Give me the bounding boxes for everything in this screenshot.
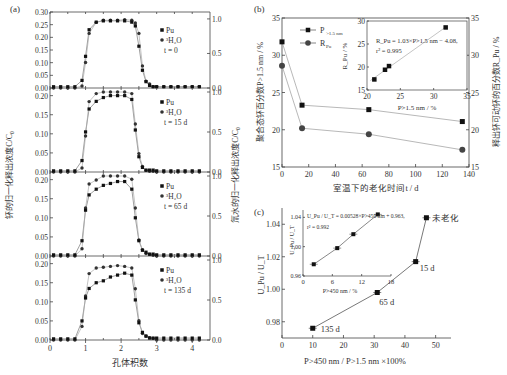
h2o-marker <box>116 264 119 267</box>
p-marker <box>300 103 305 108</box>
pu-marker <box>73 169 76 172</box>
inset-y-tick: 30 <box>358 17 366 26</box>
panel-c-xlabel: P>450 nm / P>1.5 nm ×100% <box>304 356 406 366</box>
y2-tick-label: 35 <box>471 14 479 23</box>
h2o-marker <box>123 174 126 177</box>
r-marker <box>366 131 372 137</box>
point-label: 未老化 <box>432 213 459 223</box>
y-tick-label: 0.15 <box>35 195 48 204</box>
panel-b-inset-frame <box>367 21 467 90</box>
x-tick-label: 20 <box>305 170 313 179</box>
p-marker <box>460 119 465 124</box>
pu-marker <box>109 19 112 22</box>
legend-h2o: ³H₂O <box>166 36 182 45</box>
inset-c-marker <box>351 232 355 236</box>
legend-h2o-marker <box>160 278 164 282</box>
pu-marker <box>155 253 158 256</box>
inset-x-tick: 12 <box>358 278 365 285</box>
y-tick-label: 20 <box>272 126 280 135</box>
p-marker <box>280 39 285 44</box>
x-tick-label: 40 <box>331 170 339 179</box>
r-marker <box>459 147 465 153</box>
legend-pu: Pu <box>166 182 174 191</box>
pu-marker <box>116 19 119 22</box>
pu-marker <box>102 19 105 22</box>
h2o-marker <box>80 247 83 250</box>
series-line <box>314 214 378 264</box>
y2-tick-label: 1.0 <box>212 256 222 265</box>
time-label: t = 135 d <box>164 286 191 295</box>
r-marker <box>299 125 305 131</box>
pu-marker <box>144 80 147 83</box>
y-tick-label: 25 <box>272 89 280 98</box>
c-marker <box>413 259 418 264</box>
inset-b-ylabel: R_Pu / % <box>341 42 349 69</box>
y-tick-label: 15 <box>272 163 280 172</box>
h2o-marker <box>87 272 90 275</box>
pu-marker <box>123 180 126 183</box>
inset-marker <box>383 68 388 73</box>
h2o-marker <box>84 61 87 64</box>
h2o-marker <box>134 287 137 290</box>
inset-y-tick: 20 <box>358 63 366 72</box>
h2o-marker <box>123 265 126 268</box>
pu-marker <box>130 21 133 24</box>
y2-tick-label: 1.0 <box>212 15 222 24</box>
panel-b-ylabel-right: 释出钚可动钚的百分数R_Pu / % <box>491 36 501 147</box>
point-label: 65 d <box>379 297 395 307</box>
inset-marker <box>372 77 377 82</box>
pu-marker <box>130 98 133 101</box>
h2o-marker <box>80 325 83 328</box>
inset-x-tick: 35 <box>463 92 471 101</box>
panel-b-label: (b) <box>254 4 265 14</box>
figure: (a)0.000.050.100.150.200.250.300.00.51.0… <box>0 0 507 375</box>
pu-marker <box>176 336 179 339</box>
pu-marker <box>80 159 83 162</box>
legend-p-marker <box>306 28 311 33</box>
x-tick-label: 4 <box>190 344 194 353</box>
pu-marker <box>176 169 179 172</box>
inset-c-xlabel: P>450 nm / % <box>323 288 358 294</box>
pu-marker <box>169 169 172 172</box>
panel-c-label: (c) <box>254 207 264 217</box>
pu-marker <box>152 336 155 339</box>
y2-tick-label: 30 <box>471 51 479 60</box>
pu-marker <box>134 298 137 301</box>
y-tick-label: 0.20 <box>35 92 48 101</box>
pu-marker <box>116 180 119 183</box>
pu-marker <box>152 252 155 255</box>
y-tick-label: 0.30 <box>35 8 48 17</box>
pu-marker <box>184 169 187 172</box>
y-tick-label: 0.10 <box>35 298 48 307</box>
pu-marker <box>137 155 140 158</box>
inset-marker <box>387 64 392 69</box>
pu-marker <box>80 239 83 242</box>
panel-a-label: (a) <box>10 4 20 14</box>
inset-marker <box>443 25 448 30</box>
pu-marker <box>88 193 91 196</box>
pu-marker <box>134 128 137 131</box>
h2o-marker <box>137 32 140 35</box>
legend-pu: Pu <box>166 98 174 107</box>
time-label: t = 0 <box>164 46 178 55</box>
pu-marker <box>137 45 140 48</box>
pu-marker <box>84 130 87 133</box>
panel-b-ylabel-left: 聚合态钚百分数P>1.5 nm / % <box>255 42 265 142</box>
y-tick-label: 0.15 <box>35 46 48 55</box>
h2o-marker <box>102 90 105 93</box>
pu-marker <box>52 337 55 340</box>
x-tick-label: 50 <box>432 341 440 350</box>
x-tick-label: 80 <box>385 170 393 179</box>
y2-tick-label: 25 <box>471 89 479 98</box>
pu-marker <box>184 85 187 88</box>
h2o-marker <box>109 90 112 93</box>
y-tick-label: 0.00 <box>35 336 48 345</box>
y2-tick-label: 20 <box>471 126 479 135</box>
y-tick-label: 0.05 <box>35 317 48 326</box>
inset-b-xlabel: P>1.5 nm / % <box>398 104 437 112</box>
legend-pu-marker <box>160 28 164 32</box>
pu-marker <box>191 169 194 172</box>
pu-marker <box>73 337 76 340</box>
pu-marker <box>130 273 133 276</box>
legend-h2o: ³H₂O <box>166 192 182 201</box>
